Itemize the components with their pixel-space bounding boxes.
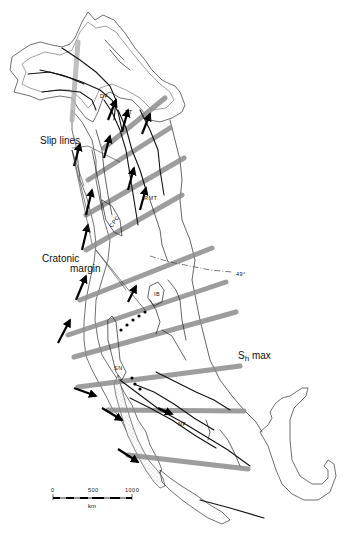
sh-max-band [74, 312, 236, 357]
slip-arrow [82, 225, 88, 250]
slip-arrow [74, 388, 96, 396]
interior-outline [170, 120, 262, 432]
slip-lines-label: Slip lines [40, 135, 80, 146]
tectonic-map: Slip lines Cratonic margin Sh max 49° DF… [0, 0, 344, 550]
sh-max-label: Sh max [238, 350, 271, 363]
fault-label-df: DF [100, 93, 108, 99]
scale-unit: km [88, 503, 96, 509]
latitude-49-label: 49° [236, 271, 246, 277]
fault-label-ib: IB [154, 291, 160, 297]
fault-label-rmt: RMT [144, 195, 158, 201]
sh-max-band [68, 282, 226, 335]
sh-max-band [108, 410, 244, 411]
scale-bar: 0 500 1000 km [51, 487, 139, 509]
sh-max-band [78, 366, 240, 387]
fault-label-sn: SN [114, 365, 123, 371]
scale-tick-1000: 1000 [125, 487, 139, 493]
cratonic-margin-label-line2: margin [70, 263, 101, 274]
scale-tick-500: 500 [88, 487, 99, 493]
fault-label-tt: TT [125, 109, 133, 115]
fault-label-nf: NF [178, 421, 186, 427]
scale-tick-0: 0 [51, 487, 55, 493]
slip-arrow [58, 320, 70, 343]
fault-label-cpc: CPC [108, 214, 120, 228]
